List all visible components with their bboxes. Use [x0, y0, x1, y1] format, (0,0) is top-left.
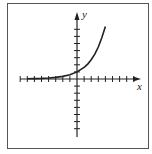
- y-axis-arrow-icon: [75, 12, 80, 20]
- plot-area: x y: [0, 0, 152, 154]
- y-axis: [74, 12, 80, 137]
- y-axis-label: y: [81, 8, 87, 20]
- exponential-curve: [27, 27, 105, 79]
- x-axis-label: x: [136, 80, 142, 92]
